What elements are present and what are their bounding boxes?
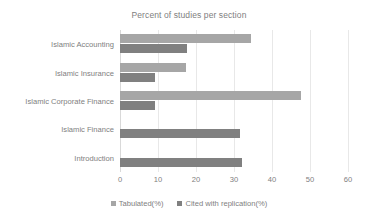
x-tick-label: 0 bbox=[118, 175, 122, 184]
x-tick-label: 10 bbox=[154, 175, 162, 184]
bar-cited bbox=[120, 129, 240, 138]
legend-item[interactable]: Cited with replication(%) bbox=[177, 199, 267, 208]
bar-cited bbox=[120, 158, 242, 167]
bar-tabulated bbox=[120, 63, 186, 72]
category-label: Islamic Finance bbox=[0, 125, 114, 134]
category-label: Islamic Insurance bbox=[0, 68, 114, 77]
bar-cited bbox=[120, 44, 187, 53]
bar-cited bbox=[120, 101, 155, 110]
legend-swatch-cited-icon bbox=[177, 201, 182, 206]
bar-tabulated bbox=[120, 34, 251, 43]
x-tick-label: 20 bbox=[192, 175, 200, 184]
bar-tabulated bbox=[120, 91, 301, 100]
plot-area bbox=[120, 30, 348, 172]
x-tick-label: 40 bbox=[268, 175, 276, 184]
bar-cited bbox=[120, 73, 155, 82]
bar-chart: Percent of studies per section Islamic A… bbox=[0, 0, 378, 223]
legend-label: Cited with replication(%) bbox=[185, 199, 267, 208]
chart-title: Percent of studies per section bbox=[0, 10, 378, 20]
gridline-40 bbox=[272, 30, 273, 172]
gridline-60 bbox=[348, 30, 349, 172]
x-tick-label: 60 bbox=[344, 175, 352, 184]
category-axis-labels: Islamic AccountingIslamic InsuranceIslam… bbox=[0, 30, 118, 172]
legend-item[interactable]: Tabulated(%) bbox=[111, 199, 164, 208]
value-axis-ticks: 0102030405060 bbox=[0, 175, 378, 187]
category-label: Islamic Corporate Finance bbox=[0, 97, 114, 106]
legend-swatch-tabulated-icon bbox=[111, 201, 116, 206]
chart-legend: Tabulated(%)Cited with replication(%) bbox=[0, 199, 378, 208]
gridline-20 bbox=[196, 30, 197, 172]
legend-label: Tabulated(%) bbox=[119, 199, 164, 208]
gridline-30 bbox=[234, 30, 235, 172]
category-label: Islamic Accounting bbox=[0, 40, 114, 49]
x-tick-label: 30 bbox=[230, 175, 238, 184]
x-tick-label: 50 bbox=[306, 175, 314, 184]
gridline-50 bbox=[310, 30, 311, 172]
category-label: Introduction bbox=[0, 153, 114, 162]
